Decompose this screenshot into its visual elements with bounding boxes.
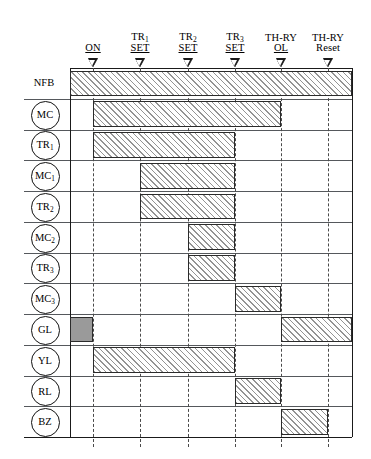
column-header-tr2_set: TR2SET — [179, 32, 198, 54]
column-header-bottom-thry_reset: Reset — [312, 43, 344, 54]
column-header-bottom-thry_ol: OL — [265, 43, 297, 54]
column-header-bottom-on: ON — [85, 43, 100, 54]
marker-arrow-thry_ol — [276, 58, 286, 67]
column-header-bottom-tr2_set: SET — [179, 43, 198, 54]
row-label-text-rl: RL — [38, 387, 51, 398]
row-label-text-tr2: TR2 — [36, 202, 53, 213]
column-header-thry_reset: TH-RYReset — [312, 33, 344, 54]
column-header-tr1_set: TR1SET — [131, 32, 150, 54]
bar-rl — [235, 378, 281, 404]
row-label-tr1: TR1 — [31, 131, 60, 160]
row-label-text-mc1: MC1 — [35, 171, 55, 182]
grid-line-thry_reset — [328, 68, 329, 447]
row-label-nfb: NFB — [24, 75, 64, 91]
row-label-subscript-tr1: 1 — [50, 143, 54, 152]
row-label-subscript-mc3: 3 — [51, 297, 55, 306]
row-label-tr2: TR2 — [31, 193, 60, 222]
row-label-text-tr1: TR1 — [36, 140, 53, 151]
row-label-mc1: MC1 — [31, 162, 60, 191]
bar-tr1 — [93, 132, 235, 158]
bar-mc2 — [188, 224, 235, 250]
plot-frame-top — [70, 68, 352, 69]
marker-arrow-on — [88, 58, 98, 67]
row-label-mc: MC — [31, 101, 60, 130]
bar-tr2 — [140, 194, 235, 220]
row-label-subscript-tr2: 2 — [50, 205, 54, 214]
column-header-on: ON — [85, 43, 100, 54]
bar-mc1 — [140, 163, 235, 189]
marker-arrow-tr2_set — [183, 58, 193, 67]
bar-gl-solid — [70, 317, 93, 343]
row-label-text-nfb: NFB — [34, 78, 54, 89]
row-label-subscript-mc1: 1 — [51, 174, 55, 183]
row-label-gl: GL — [31, 316, 60, 345]
plot-frame-right — [352, 68, 353, 437]
row-label-text-gl: GL — [38, 325, 52, 336]
bar-yl — [93, 347, 235, 373]
bar-tr3 — [188, 255, 235, 281]
column-header-thry_ol: TH-RYOL — [265, 33, 297, 54]
marker-arrow-thry_reset — [323, 58, 333, 67]
marker-arrow-tr1_set — [135, 58, 145, 67]
row-label-rl: RL — [31, 377, 60, 406]
bar-mc3 — [235, 286, 281, 312]
marker-arrow-tr3_set — [230, 58, 240, 67]
row-label-tr3: TR3 — [31, 254, 60, 283]
row-label-text-tr3: TR3 — [36, 263, 53, 274]
row-label-mc2: MC2 — [31, 224, 60, 253]
row-label-text-mc3: MC3 — [35, 294, 55, 305]
row-label-subscript-tr3: 3 — [50, 266, 54, 275]
grid-line-thry_ol — [281, 68, 282, 447]
column-header-bottom-tr3_set: SET — [226, 43, 245, 54]
column-header-bottom-tr1_set: SET — [131, 43, 150, 54]
row-label-text-yl: YL — [38, 356, 52, 367]
bar-gl — [281, 317, 352, 343]
row-label-subscript-mc2: 2 — [51, 235, 55, 244]
row-label-yl: YL — [31, 347, 60, 376]
plot-frame-left — [70, 68, 71, 437]
row-label-mc3: MC3 — [31, 285, 60, 314]
bar-mc — [93, 101, 281, 127]
row-label-bz: BZ — [31, 408, 60, 437]
row-label-text-mc2: MC2 — [35, 233, 55, 244]
bar-bz — [281, 409, 328, 435]
row-label-text-mc: MC — [37, 110, 53, 121]
sequence-chart: ONTR1SETTR2SETTR3SETTH-RYOLTH-RYResetNFB… — [0, 0, 371, 459]
column-header-tr3_set: TR3SET — [226, 32, 245, 54]
bar-nfb — [70, 71, 352, 97]
row-label-text-bz: BZ — [38, 417, 51, 428]
